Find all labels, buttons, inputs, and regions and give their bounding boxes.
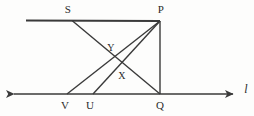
point-label-Y: Y — [107, 42, 114, 53]
segment-P-to-U — [93, 21, 160, 94]
point-label-Q: Q — [156, 100, 164, 111]
point-label-S: S — [65, 4, 71, 15]
figure-canvas — [0, 0, 254, 116]
point-label-P: P — [158, 4, 164, 15]
top-horizontal-line — [26, 21, 160, 22]
point-label-V: V — [61, 100, 69, 111]
point-label-U: U — [86, 100, 94, 111]
line-label-l: l — [244, 82, 247, 97]
geometry-figure: S P Y X V U Q l — [0, 0, 254, 116]
point-label-X: X — [118, 70, 125, 81]
